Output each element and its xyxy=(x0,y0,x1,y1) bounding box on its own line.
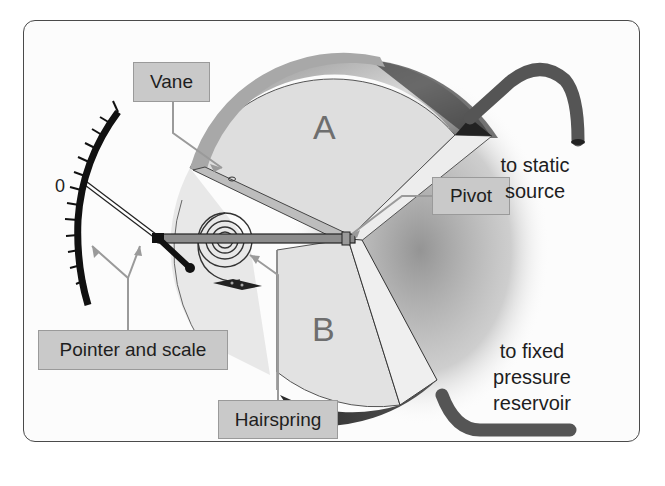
callout-hairspring: Hairspring xyxy=(218,400,338,439)
chamber-b-label: B xyxy=(312,310,335,349)
static-source-line1: to static xyxy=(470,152,600,178)
reservoir-line1: to fixed xyxy=(482,338,582,364)
reservoir-line3: reservoir xyxy=(482,390,582,416)
callout-vane: Vane xyxy=(133,62,210,102)
diagram-canvas: A B 0 Vane Pivot Pointer and scale Hairs… xyxy=(0,0,665,486)
scale-zero-label: 0 xyxy=(55,176,65,197)
static-source-text: to static source xyxy=(470,152,600,204)
static-source-line2: source xyxy=(470,178,600,204)
reservoir-line2: pressure xyxy=(482,364,582,390)
reservoir-text: to fixed pressure reservoir xyxy=(482,338,582,416)
shaft xyxy=(158,232,355,245)
chamber-a-label: A xyxy=(313,108,336,147)
callout-pointer-and-scale: Pointer and scale xyxy=(38,330,228,370)
